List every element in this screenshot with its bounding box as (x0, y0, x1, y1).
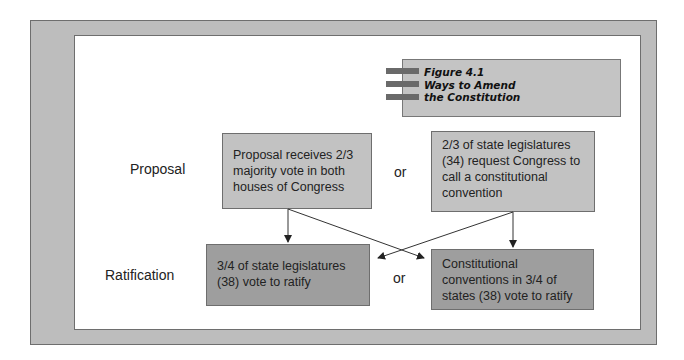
flow-arrows (0, 0, 684, 360)
arrow-diagonal-to-right (288, 209, 424, 258)
arrow-diagonal-to-left (378, 212, 513, 258)
